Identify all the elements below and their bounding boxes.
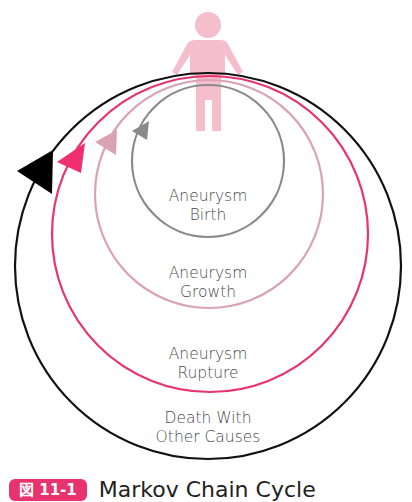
figure-number-badge: 図 11-1 <box>9 479 87 501</box>
state-label-birth: Aneurysm Birth <box>108 187 308 225</box>
state-label-line: Other Causes <box>108 428 308 447</box>
state-label-line: Aneurysm <box>108 187 308 206</box>
state-label-death: Death With Other Causes <box>108 409 308 447</box>
state-label-line: Aneurysm <box>108 264 308 283</box>
arrow-death-icon <box>17 150 53 194</box>
state-label-rupture: Aneurysm Rupture <box>108 345 308 383</box>
state-label-line: Aneurysm <box>108 345 308 364</box>
person-icon <box>172 12 243 131</box>
figure-caption: 図 11-1 Markov Chain Cycle <box>9 478 316 502</box>
figure-title: Markov Chain Cycle <box>99 479 316 501</box>
state-label-line: Rupture <box>108 364 308 383</box>
arrow-growth-icon <box>95 130 117 155</box>
markov-cycle-diagram <box>0 0 412 470</box>
state-label-line: Growth <box>108 283 308 302</box>
state-label-growth: Aneurysm Growth <box>108 264 308 302</box>
arrow-rupture-icon <box>57 143 85 173</box>
state-label-line: Death With <box>108 409 308 428</box>
state-label-line: Birth <box>108 206 308 225</box>
